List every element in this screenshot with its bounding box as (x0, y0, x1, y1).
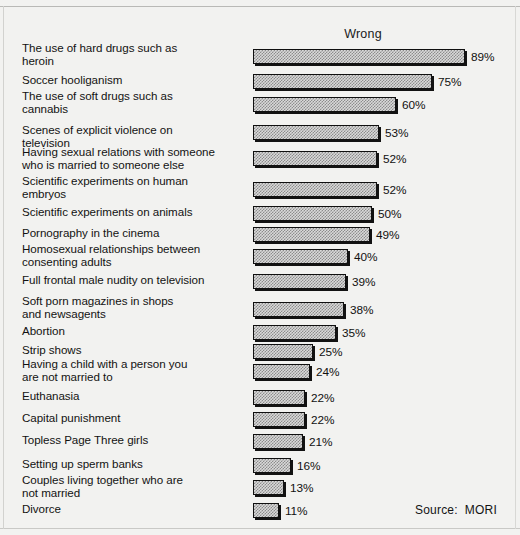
bar (253, 434, 303, 449)
bar (253, 458, 291, 473)
bar-value-label: 53% (385, 126, 408, 140)
bar-value-label: 40% (354, 250, 377, 264)
bar-value-label: 22% (311, 391, 334, 405)
bar-wrapper (253, 49, 468, 64)
source-attribution: Source: MORI (415, 503, 497, 517)
bar-category-label: Abortion (22, 325, 248, 338)
bar (253, 74, 432, 89)
bar-category-label: Euthanasia (22, 390, 248, 403)
bar-wrapper (253, 434, 306, 449)
bar (253, 249, 348, 264)
bar-category-label: Soccer hooliganism (22, 74, 248, 87)
bar-category-label: Having sexual relations with someone who… (22, 146, 248, 171)
bar-value-label: 60% (402, 98, 425, 112)
bar-category-label: Pornography in the cinema (22, 227, 248, 240)
bar-wrapper (253, 206, 375, 221)
bar (253, 151, 377, 166)
bar (253, 364, 310, 379)
bar (253, 503, 279, 518)
bar-value-label: 75% (438, 75, 461, 89)
bar-wrapper (253, 458, 294, 473)
bar-value-label: 11% (285, 504, 307, 518)
bar-value-label: 52% (383, 183, 406, 197)
bar-value-label: 16% (297, 459, 320, 473)
bar-value-label: 89% (471, 50, 494, 64)
bar-wrapper (253, 125, 382, 140)
bar (253, 302, 344, 317)
bar-wrapper (253, 302, 347, 317)
bar-wrapper (253, 249, 351, 264)
bar-category-label: Soft porn magazines in shops and newsage… (22, 295, 248, 320)
bar-category-label: Scientific experiments on human embryos (22, 175, 248, 200)
bar-category-label: Divorce (22, 503, 248, 516)
bar (253, 49, 465, 64)
bar-chart-rows: The use of hard drugs such as heroin89%S… (0, 0, 520, 535)
bar (253, 344, 313, 359)
bar-category-label: Homosexual relationships between consent… (22, 243, 248, 268)
bar-wrapper (253, 480, 287, 495)
bar-wrapper (253, 182, 380, 197)
bar (253, 390, 305, 405)
bar-category-label: Couples living together who are not marr… (22, 474, 248, 499)
bar-value-label: 50% (378, 207, 401, 221)
chart-page: Wrong The use of hard drugs such as hero… (0, 0, 520, 535)
bar-wrapper (253, 74, 435, 89)
bar-value-label: 52% (383, 152, 406, 166)
bar (253, 412, 305, 427)
bar-value-label: 13% (290, 481, 313, 495)
bar-category-label: Full frontal male nudity on television (22, 274, 248, 287)
bar-wrapper (253, 364, 313, 379)
bar-category-label: Setting up sperm banks (22, 458, 248, 471)
bar-value-label: 24% (316, 365, 339, 379)
bar-wrapper (253, 151, 380, 166)
bar-wrapper (253, 503, 282, 518)
bar (253, 206, 372, 221)
bar-wrapper (253, 344, 316, 359)
bar-value-label: 38% (350, 303, 373, 317)
bar-value-label: 39% (352, 275, 375, 289)
bar-category-label: Topless Page Three girls (22, 434, 248, 447)
bar (253, 274, 346, 289)
bar-value-label: 21% (309, 435, 332, 449)
bar-category-label: Scientific experiments on animals (22, 206, 248, 219)
bar (253, 480, 284, 495)
bar-wrapper (253, 227, 373, 242)
bar-category-label: The use of hard drugs such as heroin (22, 42, 248, 67)
bar-value-label: 25% (319, 345, 342, 359)
bar-wrapper (253, 274, 349, 289)
bar-category-label: Capital punishment (22, 412, 248, 425)
bar-value-label: 35% (342, 326, 365, 340)
bar-wrapper (253, 325, 339, 340)
bar-category-label: The use of soft drugs such as cannabis (22, 90, 248, 115)
bar (253, 182, 377, 197)
bar (253, 125, 379, 140)
bar-wrapper (253, 412, 308, 427)
bar (253, 97, 396, 112)
bar-value-label: 49% (376, 228, 399, 242)
bar-value-label: 22% (311, 413, 334, 427)
bar-category-label: Having a child with a person you are not… (22, 358, 248, 383)
bar-wrapper (253, 97, 399, 112)
bar-wrapper (253, 390, 308, 405)
bar (253, 325, 336, 340)
bar (253, 227, 370, 242)
bar-category-label: Strip shows (22, 344, 248, 357)
